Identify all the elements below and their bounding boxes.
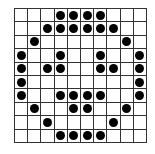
- dot-icon: [43, 118, 52, 127]
- grid-cell: [68, 63, 81, 76]
- dot-icon: [56, 131, 65, 140]
- grid-cell: [28, 22, 41, 35]
- grid-cell: [121, 36, 134, 49]
- grid-cell: [81, 116, 94, 129]
- grid-cell: [28, 103, 41, 116]
- grid-cell: [94, 89, 107, 102]
- grid-cell: [134, 36, 147, 49]
- grid-cell: [134, 130, 147, 143]
- grid-cell: [134, 116, 147, 129]
- dot-icon: [17, 91, 26, 100]
- dot-icon: [135, 51, 144, 60]
- dot-icon: [17, 78, 26, 87]
- grid-cell: [41, 116, 54, 129]
- grid-cell: [15, 76, 28, 89]
- grid-cell: [81, 89, 94, 102]
- dot-icon: [56, 51, 65, 60]
- dot-icon: [96, 131, 105, 140]
- grid-cell: [28, 63, 41, 76]
- grid-cell: [55, 76, 68, 89]
- dot-icon: [43, 64, 52, 73]
- grid-cell: [121, 103, 134, 116]
- dot-icon: [83, 91, 92, 100]
- dot-icon: [135, 78, 144, 87]
- dot-icon: [17, 64, 26, 73]
- dot-icon: [43, 24, 52, 33]
- grid-cell: [81, 103, 94, 116]
- grid-cell: [55, 49, 68, 62]
- grid-cell: [134, 49, 147, 62]
- dot-icon: [69, 104, 78, 113]
- grid-cell: [107, 63, 120, 76]
- grid-cell: [68, 76, 81, 89]
- grid-cell: [68, 9, 81, 22]
- dot-icon: [83, 24, 92, 33]
- dot-icon: [96, 51, 105, 60]
- dot-icon: [83, 131, 92, 140]
- grid-cell: [15, 49, 28, 62]
- grid-cell: [15, 103, 28, 116]
- dot-icon: [30, 37, 39, 46]
- grid-cell: [28, 9, 41, 22]
- grid-cell: [68, 89, 81, 102]
- dot-icon: [135, 91, 144, 100]
- grid-cell: [41, 9, 54, 22]
- grid-cell: [55, 89, 68, 102]
- dot-icon: [56, 91, 65, 100]
- dot-icon: [56, 64, 65, 73]
- grid-cell: [107, 130, 120, 143]
- dot-icon: [56, 11, 65, 20]
- dot-icon: [109, 24, 118, 33]
- grid-cell: [15, 36, 28, 49]
- grid-cell: [134, 103, 147, 116]
- grid-cell: [15, 22, 28, 35]
- grid-cell: [68, 22, 81, 35]
- grid-cell: [28, 89, 41, 102]
- grid-cell: [121, 9, 134, 22]
- grid-cell: [81, 9, 94, 22]
- dot-icon: [56, 24, 65, 33]
- dot-icon: [69, 11, 78, 20]
- grid-cell: [15, 116, 28, 129]
- grid-cell: [94, 63, 107, 76]
- grid-cell: [121, 116, 134, 129]
- grid-cell: [68, 36, 81, 49]
- grid-cell: [41, 103, 54, 116]
- grid-cell: [107, 76, 120, 89]
- grid-cell: [28, 76, 41, 89]
- grid-cell: [68, 116, 81, 129]
- dot-icon: [122, 37, 131, 46]
- dot-icon: [69, 131, 78, 140]
- grid-cell: [55, 103, 68, 116]
- grid-cell: [55, 130, 68, 143]
- grid-cell: [121, 63, 134, 76]
- grid-cell: [121, 22, 134, 35]
- grid-cell: [55, 116, 68, 129]
- grid-cell: [15, 89, 28, 102]
- grid-cell: [15, 130, 28, 143]
- grid-cell: [55, 63, 68, 76]
- grid-cell: [81, 76, 94, 89]
- grid-cell: [107, 116, 120, 129]
- grid-cell: [28, 49, 41, 62]
- grid-cell: [41, 63, 54, 76]
- grid-cell: [134, 22, 147, 35]
- dot-icon: [109, 118, 118, 127]
- grid-cell: [68, 49, 81, 62]
- grid-cell: [81, 49, 94, 62]
- grid-cell: [107, 49, 120, 62]
- grid-cell: [134, 76, 147, 89]
- grid-cell: [134, 89, 147, 102]
- grid-cell: [55, 36, 68, 49]
- dot-icon: [96, 91, 105, 100]
- grid-cell: [68, 130, 81, 143]
- grid-cell: [41, 89, 54, 102]
- dot-icon: [96, 11, 105, 20]
- grid-cell: [28, 116, 41, 129]
- dot-icon: [135, 64, 144, 73]
- grid-cell: [94, 130, 107, 143]
- grid-cell: [134, 63, 147, 76]
- grid-cell: [81, 22, 94, 35]
- grid-cell: [15, 63, 28, 76]
- grid-cell: [55, 22, 68, 35]
